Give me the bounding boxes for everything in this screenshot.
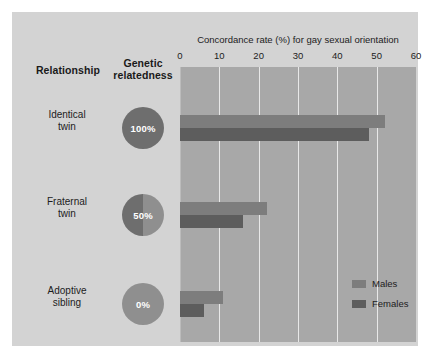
x-axis-tick-40: 40 (332, 50, 343, 61)
bar-females-0 (180, 128, 369, 141)
row-label-1-line2: twin (24, 208, 110, 220)
x-axis-tick-60: 60 (411, 50, 422, 61)
column-header-relationship: Relationship (20, 64, 116, 76)
gridline-40 (337, 67, 338, 342)
legend-item-females: Females (352, 298, 414, 309)
x-axis-tick-10: 10 (214, 50, 225, 61)
x-axis-tick-0: 0 (177, 50, 182, 61)
bar-females-2 (180, 304, 204, 317)
gridline-30 (298, 67, 299, 342)
column-header-genetic-relatedness-line1: Genetic (107, 57, 179, 69)
row-label-0-line1: Identical (24, 109, 110, 121)
row-label-1: Fraternaltwin (24, 196, 110, 220)
relatedness-value-2: 0% (122, 283, 164, 325)
relatedness-value-0: 100% (122, 107, 164, 149)
legend-swatch-males-icon (352, 280, 366, 288)
x-axis-tick-20: 20 (253, 50, 264, 61)
bar-males-1 (180, 202, 267, 215)
column-header-genetic-relatedness-line2: relatedness (107, 69, 179, 81)
legend-label-females: Females (372, 298, 408, 309)
legend-item-males: Males (352, 278, 414, 289)
chart-title: Concordance rate (%) for gay sexual orie… (180, 34, 416, 45)
relatedness-value-1: 50% (122, 194, 164, 236)
row-label-0-line2: twin (24, 121, 110, 133)
figure-card: Relationship Genetic relatedness Identic… (12, 12, 418, 346)
row-label-0: Identicaltwin (24, 109, 110, 133)
plot-area: Males Females (180, 67, 416, 342)
bar-males-2 (180, 291, 223, 304)
x-axis-tick-50: 50 (371, 50, 382, 61)
bar-males-0 (180, 115, 385, 128)
x-axis-tick-30: 30 (293, 50, 304, 61)
bar-females-1 (180, 215, 243, 228)
legend-swatch-females-icon (352, 300, 366, 308)
chart-legend: Males Females (352, 278, 414, 318)
row-label-2-line2: sibling (24, 297, 110, 309)
legend-label-males: Males (372, 278, 397, 289)
column-header-genetic-relatedness: Genetic relatedness (107, 57, 179, 81)
row-label-1-line1: Fraternal (24, 196, 110, 208)
row-label-2: Adoptivesibling (24, 285, 110, 309)
relatedness-circle-2: 0% (122, 283, 164, 325)
relatedness-circle-1: 50% (122, 194, 164, 236)
row-label-2-line1: Adoptive (24, 285, 110, 297)
x-axis-tick-labels: 0102030405060 (180, 50, 416, 64)
relatedness-circle-0: 100% (122, 107, 164, 149)
